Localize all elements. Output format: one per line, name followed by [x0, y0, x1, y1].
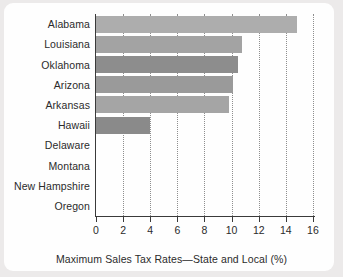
gridline-12	[259, 14, 261, 216]
bar-arizona	[96, 76, 233, 93]
bar-louisiana	[96, 36, 242, 53]
y-axis-line	[95, 14, 96, 216]
x-tick-2	[123, 217, 124, 222]
y-axis-label-arkansas: Arkansas	[0, 99, 90, 111]
bar-arkansas	[96, 96, 229, 113]
x-axis-title: Maximum Sales Tax Rates—State and Local …	[0, 253, 343, 265]
y-axis-label-oregon: Oregon	[0, 200, 90, 212]
bar-oklahoma	[96, 56, 238, 73]
x-tick-label-0: 0	[81, 224, 111, 236]
plot-area: 0246810121416	[96, 14, 314, 216]
chart-page: Alabama Louisiana Oklahoma Arizona Arkan…	[0, 0, 343, 277]
x-tick-label-4: 4	[135, 224, 165, 236]
y-axis-label-alabama: Alabama	[0, 18, 90, 30]
x-tick-12	[259, 217, 260, 222]
y-axis-label-new-hampshire: New Hampshire	[0, 180, 90, 192]
x-tick-label-2: 2	[108, 224, 138, 236]
bar-hawaii	[96, 117, 150, 134]
y-axis-label-louisiana: Louisiana	[0, 38, 90, 50]
y-axis-category-labels: Alabama Louisiana Oklahoma Arizona Arkan…	[0, 14, 90, 216]
x-tick-label-14: 14	[271, 224, 301, 236]
bar-chart-figure: Alabama Louisiana Oklahoma Arizona Arkan…	[0, 0, 343, 277]
y-axis-label-delaware: Delaware	[0, 139, 90, 151]
y-axis-label-arizona: Arizona	[0, 79, 90, 91]
x-tick-label-8: 8	[189, 224, 219, 236]
y-axis-label-oklahoma: Oklahoma	[0, 59, 90, 71]
x-tick-label-6: 6	[162, 224, 192, 236]
x-tick-6	[177, 217, 178, 222]
x-tick-4	[150, 217, 151, 222]
x-tick-label-12: 12	[244, 224, 274, 236]
x-tick-10	[232, 217, 233, 222]
x-tick-16	[313, 217, 314, 222]
x-tick-8	[204, 217, 205, 222]
x-tick-0	[96, 217, 97, 222]
y-axis-label-montana: Montana	[0, 160, 90, 172]
gridline-16	[313, 14, 315, 216]
x-tick-label-10: 10	[217, 224, 247, 236]
x-tick-14	[286, 217, 287, 222]
bar-alabama	[96, 16, 297, 33]
x-tick-label-16: 16	[298, 224, 328, 236]
gridline-14	[286, 14, 288, 216]
y-axis-label-hawaii: Hawaii	[0, 119, 90, 131]
